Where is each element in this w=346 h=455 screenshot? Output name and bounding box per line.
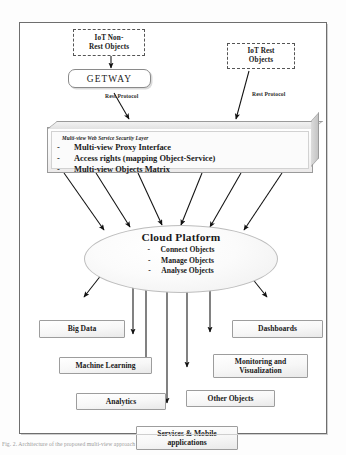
big-data-node[interactable]: Big Data [39, 320, 125, 338]
diagram-page: IoT Non- Rest Objects IoT Rest Objects G… [0, 0, 346, 455]
other-objects-label: Other Objects [207, 394, 253, 403]
figure-caption: Fig. 2. Architecture of the proposed mul… [2, 441, 342, 447]
security-layer-node[interactable]: Multi-view Web Service Security Layer - … [47, 127, 313, 173]
security-layer-content: Multi-view Web Service Security Layer - … [51, 131, 309, 169]
diagram-frame: IoT Non- Rest Objects IoT Rest Objects G… [19, 22, 327, 434]
cloud-platform-title: Cloud Platform [85, 232, 277, 243]
bullet-dash: - [148, 245, 161, 255]
arrow-security-to-cloud-4 [181, 173, 202, 225]
slab-side-face [311, 112, 319, 167]
security-layer-item-label: Multi-view Proxy Interface [74, 142, 171, 153]
security-layer-item: - Multi-view Proxy Interface [57, 142, 304, 153]
bullet-dash: - [57, 153, 74, 164]
security-layer-item: - Multi-view Objects Matrix [57, 164, 304, 175]
cloud-platform-list: -Connect Objects -Manage Objects -Analys… [85, 245, 277, 276]
security-layer-list: - Multi-view Proxy Interface - Access ri… [57, 142, 304, 175]
analytics-label: Analytics [106, 397, 136, 406]
arrow-security-to-cloud-3 [138, 173, 162, 225]
machine-learning-node[interactable]: Machine Learning [59, 357, 152, 374]
dashboards-label: Dashboards [258, 324, 297, 333]
iot-rest-objects-label: IoT Rest Objects [247, 47, 274, 65]
gateway-node[interactable]: GETWAY [68, 69, 151, 88]
cloud-platform-node[interactable]: Cloud Platform -Connect Objects -Manage … [84, 225, 278, 293]
machine-learning-label: Machine Learning [75, 361, 135, 370]
cloud-platform-item: -Analyse Objects [85, 266, 277, 276]
arrow-security-to-cloud-6 [244, 173, 282, 230]
security-layer-item-label: Access rights (mapping Object-Service) [74, 153, 215, 164]
gateway-label: GETWAY [87, 74, 132, 84]
cloud-platform-item-label: Analyse Objects [161, 266, 214, 275]
dashboards-node[interactable]: Dashboards [232, 320, 323, 338]
cloud-platform-item-label: Connect Objects [161, 245, 215, 254]
security-layer-item-label: Multi-view Objects Matrix [74, 164, 170, 175]
big-data-label: Big Data [68, 324, 96, 333]
monitoring-visualization-node[interactable]: Monitoring and Visualization [213, 354, 308, 378]
bullet-dash: - [57, 164, 74, 175]
slab-top-face [47, 121, 323, 129]
bullet-dash: - [148, 266, 161, 276]
rest-protocol-label-right: Rest Protocol [252, 91, 285, 97]
other-objects-node[interactable]: Other Objects [186, 390, 275, 407]
security-layer-item: - Access rights (mapping Object-Service) [57, 153, 304, 164]
bullet-dash: - [57, 142, 74, 153]
cloud-platform-item: -Connect Objects [85, 245, 277, 255]
iot-non-rest-objects-label: IoT Non- Rest Objects [89, 34, 129, 52]
analytics-node[interactable]: Analytics [76, 393, 166, 410]
arrow-security-to-cloud-2 [96, 173, 130, 227]
cloud-platform-item-label: Manage Objects [161, 256, 214, 265]
iot-rest-objects-node[interactable]: IoT Rest Objects [227, 43, 295, 69]
arrow-rest-to-security [236, 71, 249, 119]
arrow-security-to-cloud-5 [210, 173, 241, 227]
rest-protocol-label-left: Rest Protocol [105, 93, 138, 99]
arrow-security-to-cloud-1 [64, 173, 104, 230]
cloud-platform-item: -Manage Objects [85, 256, 277, 266]
iot-non-rest-objects-node[interactable]: IoT Non- Rest Objects [73, 29, 145, 56]
bullet-dash: - [148, 256, 161, 266]
monitoring-visualization-label: Monitoring and Visualization [235, 357, 286, 376]
security-layer-title: Multi-view Web Service Security Layer [62, 135, 304, 141]
